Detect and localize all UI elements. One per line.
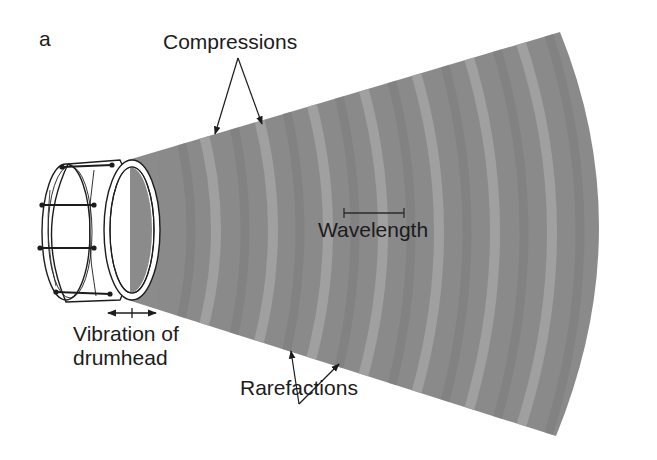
drum [37,160,160,302]
vibration-label-line1: Vibration of [73,322,179,346]
compressions-label: Compressions [163,30,297,54]
wavelength-label: Wavelength [318,218,428,242]
vibration-double-arrow [108,308,156,318]
vibration-label-line2: drumhead [73,346,168,370]
rarefactions-label: Rarefactions [240,376,358,400]
panel-label: a [39,27,51,51]
sound-wave-diagram: a Compressions Wavelength Vibration of d… [0,0,657,460]
